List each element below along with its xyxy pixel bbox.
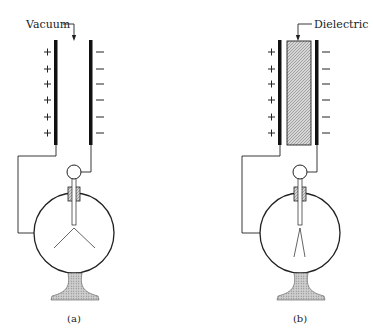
dielectric-slab	[287, 41, 311, 145]
positive-plate	[278, 40, 282, 145]
vacuum-label-group: Vacuum	[25, 18, 76, 41]
dielectric-label: Dielectric	[314, 18, 368, 31]
caption-a: (a)	[67, 313, 81, 324]
stand-base	[277, 273, 325, 300]
panel-a: Vacuum	[18, 18, 114, 324]
stand-base	[51, 273, 99, 300]
dielectric-label-group: Dielectric	[296, 18, 369, 41]
dielectric-pointer-line	[298, 24, 312, 38]
positive-plate	[54, 40, 58, 145]
conducting-rod	[72, 178, 76, 225]
negative-charges	[322, 52, 330, 133]
caption-b: (b)	[293, 313, 307, 324]
dielectric-arrow-icon	[296, 35, 300, 41]
negative-plate	[89, 40, 93, 145]
negative-plate	[315, 40, 319, 145]
terminal-ball	[293, 165, 307, 179]
terminal-ball	[67, 165, 81, 179]
diagram-canvas: Vacuum	[0, 0, 373, 336]
positive-charges	[268, 49, 275, 137]
terminal-wire	[307, 145, 317, 172]
conducting-rod	[298, 178, 302, 225]
vacuum-arrow-icon	[72, 35, 76, 41]
positive-charges	[44, 49, 51, 137]
negative-charges	[96, 52, 104, 133]
electroscope-a	[34, 165, 114, 300]
panel-b: Dielectric	[242, 18, 368, 324]
vacuum-label: Vacuum	[25, 18, 71, 31]
terminal-wire	[81, 145, 91, 172]
electroscope-b	[260, 165, 340, 300]
